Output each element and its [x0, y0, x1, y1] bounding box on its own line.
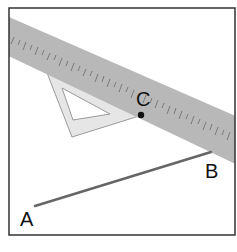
- label-a: A: [20, 208, 34, 230]
- diagram-canvas: C B A: [0, 0, 237, 252]
- segment-ab: [35, 152, 211, 206]
- label-b: B: [205, 160, 218, 182]
- point-c-dot: [138, 112, 144, 118]
- ruler: [0, 13, 237, 166]
- label-c: C: [136, 88, 150, 110]
